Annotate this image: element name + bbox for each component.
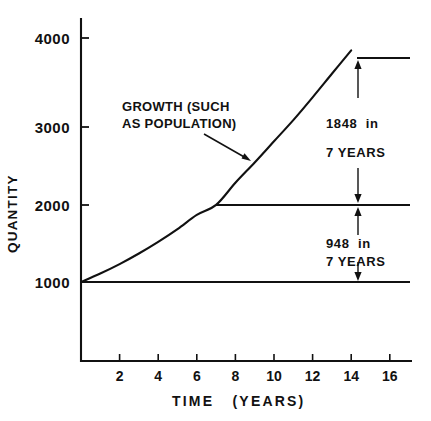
y-tick-label-3000: 3000 [22,120,70,135]
x-tick-label-8: 8 [223,369,247,383]
y-tick-label-1000: 1000 [22,275,70,290]
lower-growth-label-line2: 7 YEARS [326,252,386,272]
upper-growth-down-arrow [354,168,361,203]
y-tick-label-4000: 4000 [22,31,70,46]
x-tick-label-6: 6 [185,369,209,383]
x-tick-label-16: 16 [378,369,402,383]
x-tick-label-10: 10 [262,369,286,383]
x-axis-title: TIME (YEARS) [172,394,305,408]
x-tick-label-12: 12 [301,369,325,383]
x-tick-label-14: 14 [339,369,363,383]
upper-growth-up-arrow [354,60,361,98]
lower-growth-label-line1: 948 in [326,234,371,254]
curve-label-line1: GROWTH (SUCH [122,98,230,115]
x-tick-label-2: 2 [108,369,132,383]
y-axis-ticks [81,38,89,282]
upper-growth-label-line1: 1848 in [326,114,379,134]
y-axis-title: QUANTITY [6,174,20,253]
y-tick-label-2000: 2000 [22,198,70,213]
x-tick-label-4: 4 [146,369,170,383]
lower-growth-up-arrow [354,207,361,235]
curve-label-line2: AS POPULATION) [122,115,236,132]
upper-growth-label-line2: 7 YEARS [326,143,386,163]
growth-curve-path [81,50,351,282]
curve-label-leader-arrow [204,134,251,161]
